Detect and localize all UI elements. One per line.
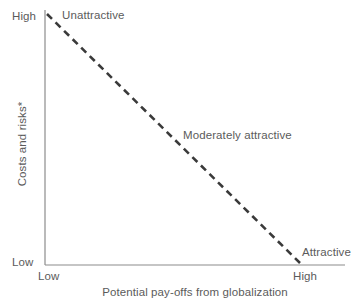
y-axis-title: Costs and risks* xyxy=(16,89,28,199)
annotation-unattractive: Unattractive xyxy=(62,9,125,21)
y-axis-tick-high: High xyxy=(12,10,36,22)
annotation-attractive: Attractive xyxy=(302,246,351,258)
plot-area xyxy=(0,0,357,307)
annotation-moderately-attractive: Moderately attractive xyxy=(183,129,292,141)
x-axis-title: Potential pay-offs from globalization xyxy=(45,286,345,298)
x-axis-tick-high: High xyxy=(293,270,317,282)
chart-container: High Low Low High Costs and risks* Poten… xyxy=(0,0,357,307)
y-axis-tick-low: Low xyxy=(12,256,33,268)
x-axis-tick-low: Low xyxy=(38,270,59,282)
